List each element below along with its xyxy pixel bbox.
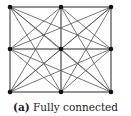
graph-node — [8, 47, 13, 52]
graph-node — [8, 5, 13, 10]
fully-connected-graph — [0, 0, 131, 100]
graph-node — [59, 90, 64, 95]
graph-node — [8, 90, 13, 95]
caption-text: Fully connected — [33, 101, 118, 113]
graph-node — [109, 90, 114, 95]
figure-caption: (a) Fully connected — [0, 101, 131, 114]
graph-node — [59, 47, 64, 52]
graph-node — [109, 47, 114, 52]
graph-node — [109, 5, 114, 10]
caption-label: (a) — [13, 101, 30, 113]
graph-node — [59, 5, 64, 10]
